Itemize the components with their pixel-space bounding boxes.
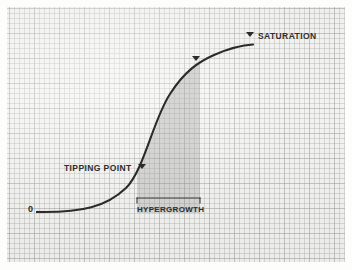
origin-label: 0 [28,204,33,214]
hypergrowth-label: HYPERGROWTH [137,205,204,214]
inflection-marker-icon [192,56,200,61]
saturation-label: SATURATION [258,31,316,41]
figure-canvas: SATURATION TIPPING POINT HYPERGROWTH 0 [0,0,352,270]
tipping-point-marker-icon [138,164,146,169]
tipping-point-label: TIPPING POINT [64,163,132,173]
saturation-marker-icon [246,32,254,37]
